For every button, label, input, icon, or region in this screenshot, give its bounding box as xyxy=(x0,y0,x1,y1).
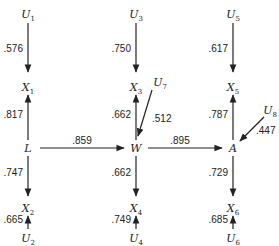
node-subscript: 7 xyxy=(162,83,166,91)
coefficient-l-x2: .747 xyxy=(4,167,24,178)
node-x3: X3 xyxy=(129,81,142,96)
node-subscript: 2 xyxy=(30,209,34,217)
node-u2: U2 xyxy=(21,232,35,246)
node-subscript: 5 xyxy=(235,15,239,23)
node-w: W xyxy=(130,142,143,155)
coefficient-l-w: .859 xyxy=(72,135,92,146)
coefficient-a-x5: .787 xyxy=(209,109,229,120)
node-u7: U7 xyxy=(153,76,167,91)
node-label: A xyxy=(228,142,237,155)
node-x5: X5 xyxy=(226,81,239,96)
node-subscript: 6 xyxy=(235,209,240,217)
node-u5: U5 xyxy=(226,8,240,23)
coefficient-u1-x1: .576 xyxy=(4,43,24,54)
node-subscript: 1 xyxy=(30,88,34,96)
edge-u7-to-w xyxy=(138,90,152,136)
coefficient-w-x4: .662 xyxy=(112,167,132,178)
node-subscript: 3 xyxy=(138,15,142,23)
node-subscript: 4 xyxy=(138,239,143,246)
node-subscript: 8 xyxy=(272,111,276,119)
node-subscript: 1 xyxy=(30,15,34,23)
coefficient-u2-x2: .665 xyxy=(4,214,24,225)
coefficient-u5-x5: .617 xyxy=(209,43,229,54)
node-u6: U6 xyxy=(226,232,240,246)
coefficient-u7-w: .512 xyxy=(152,113,172,124)
coefficient-l-x1: .817 xyxy=(4,109,24,120)
node-subscript: 6 xyxy=(235,239,240,246)
node-l: L xyxy=(23,142,31,155)
node-u1: U1 xyxy=(21,8,35,23)
node-x1: X1 xyxy=(21,81,34,96)
node-subscript: 4 xyxy=(138,209,143,217)
coefficient-a-x6: .729 xyxy=(209,167,229,178)
coefficient-u3-x3: .750 xyxy=(112,43,132,54)
coefficient-u4-x4: .749 xyxy=(112,214,132,225)
node-a: A xyxy=(228,142,237,155)
node-u4: U4 xyxy=(129,232,143,246)
coefficient-w-x3: .662 xyxy=(112,109,132,120)
coefficient-u6-x6: .685 xyxy=(209,214,229,225)
node-u3: U3 xyxy=(129,8,143,23)
path-diagram: U1U2U3U4U5U6U7U8X1X2X3X4X5X6LWA .576.817… xyxy=(0,0,279,246)
node-subscript: 2 xyxy=(30,239,34,246)
node-subscript: 3 xyxy=(138,88,142,96)
node-u8: U8 xyxy=(263,104,277,119)
coefficient-w-a: .895 xyxy=(170,135,190,146)
coefficient-u8-a: .447 xyxy=(256,125,276,136)
node-subscript: 5 xyxy=(235,88,239,96)
node-label: L xyxy=(23,142,31,155)
node-label: W xyxy=(130,142,143,155)
